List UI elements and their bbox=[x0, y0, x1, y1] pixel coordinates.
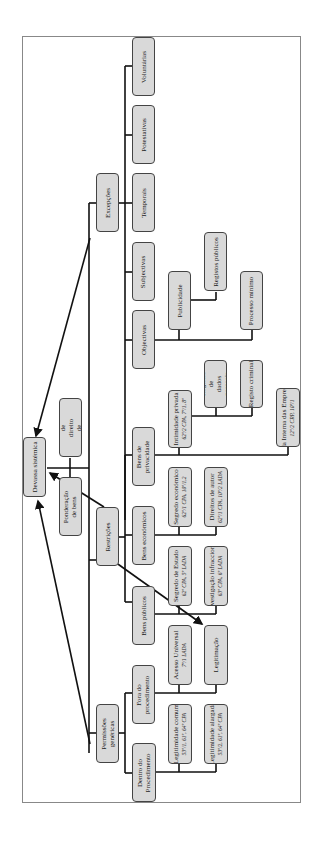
node-fora-procedimento: Fora do procedimento bbox=[132, 665, 155, 724]
connector-lines bbox=[0, 0, 320, 842]
node-label: Permissões genéricas bbox=[100, 718, 116, 750]
node-label: Objectivas bbox=[140, 325, 148, 355]
node-excepcoes: Excepções bbox=[96, 173, 119, 232]
node-ref: 7º/1 LADA bbox=[180, 630, 188, 679]
node-registos-publicos: Registos públicos bbox=[204, 232, 227, 291]
node-ref: 63º CPA, 6º LADA bbox=[216, 546, 224, 606]
node-ref: 12º/2 CRP, 10º/1 bbox=[288, 388, 296, 447]
node-investigacao-infraccional: Investigação infraccional63º CPA, 6º LAD… bbox=[204, 546, 228, 606]
node-label: Excepções bbox=[104, 188, 112, 218]
node-label: Bens económicos bbox=[140, 511, 148, 560]
node-bens-privacidade: Bens de privacidade bbox=[132, 427, 155, 486]
node-label: Vida Interna das Empresas bbox=[280, 388, 288, 447]
node-label: Segredo de Estado bbox=[172, 550, 180, 602]
node-temporais: Temporais bbox=[132, 173, 155, 232]
node-intimidade-privada: Intimidade privada62º/2 CPA, 7º/1, 8º bbox=[168, 390, 192, 448]
node-label: Ponderação de bens bbox=[63, 490, 79, 523]
node-ref: 62º CPA, 5º LADA bbox=[180, 550, 188, 602]
node-label: Publicidade bbox=[176, 284, 184, 317]
node-label: Dentro do Procedimento bbox=[136, 753, 152, 792]
node-label: Registos de dados pessoais bbox=[204, 372, 227, 396]
node-registos-dados-pessoais: Registos de dados pessoais bbox=[204, 360, 227, 408]
node-legitimidade-alargada: Legitimidade alargada53º/2, 61º, 64º CPA bbox=[204, 704, 228, 764]
node-label: Registos públicos bbox=[212, 237, 220, 287]
node-label: Devassa sistémica bbox=[31, 441, 39, 492]
node-registo-criminal: Registo criminal bbox=[240, 360, 263, 408]
node-ref: 62º/2 CPA, 7º/1, 8º bbox=[180, 392, 188, 445]
node-permissoes-genericas: Permissões genéricas bbox=[96, 704, 119, 763]
node-segredo-estado: Segredo de Estado62º CPA, 5º LADA bbox=[168, 546, 192, 606]
node-label: Direitos de autor bbox=[208, 473, 216, 520]
node-label: Investigação infraccional bbox=[208, 546, 216, 606]
node-label: Temporais bbox=[140, 188, 148, 217]
node-label: Subjectivas bbox=[140, 255, 148, 287]
node-label: Fora do procedimento bbox=[136, 675, 152, 713]
node-objectivas: Objectivas bbox=[132, 310, 155, 369]
node-devassa-sistemica: Devassa sistémica bbox=[23, 437, 46, 497]
node-vida-interna-empresas: Vida Interna das Empresas12º/2 CRP, 10º/… bbox=[276, 388, 300, 447]
node-label: Bens públicos bbox=[140, 596, 148, 635]
node-label: Voluntárias bbox=[140, 51, 148, 83]
node-bens-economicos: Bens económicos bbox=[132, 506, 155, 565]
node-label: Registo criminal bbox=[248, 361, 256, 407]
node-label: Processo mínimo bbox=[248, 276, 256, 324]
node-label: Potestativas bbox=[140, 118, 148, 151]
node-dentro-procedimento: Dentro do Procedimento bbox=[132, 743, 156, 802]
node-abuso-direito-acesso: Abuso de direito de acesso bbox=[59, 398, 82, 457]
node-restricoes: Restrições bbox=[96, 507, 119, 566]
node-ref: 62º/1 CPA, 10º/1,2 bbox=[180, 469, 188, 524]
node-voluntarias: Voluntárias bbox=[132, 37, 155, 96]
node-label: Abuso de direito de acesso bbox=[59, 417, 82, 438]
node-processo-minimo: Processo mínimo bbox=[240, 271, 263, 330]
node-legitimidade-comum: Legitimidade comum53º/1, 61º, 64º CPA bbox=[168, 704, 192, 764]
node-ref: 53º/2, 61º, 64º CPA bbox=[216, 704, 224, 764]
node-legitimacao: Legitimação bbox=[204, 625, 228, 685]
node-publicidade: Publicidade bbox=[168, 271, 191, 330]
node-label: Legitimidade alargada bbox=[208, 704, 216, 764]
node-ponderacao-bens: Ponderação de bens bbox=[59, 477, 82, 536]
node-potestativas: Potestativas bbox=[132, 105, 155, 164]
node-label: Legitimação bbox=[212, 638, 220, 673]
node-segredo-economico: Segredo económico62º/1 CPA, 10º/1,2 bbox=[168, 467, 192, 527]
node-bens-publicos: Bens públicos bbox=[132, 586, 155, 645]
node-label: Restrições bbox=[104, 522, 112, 551]
node-direitos-autor: Direitos de autor62º/1 CPA, 10º/2 LADA bbox=[204, 467, 228, 527]
node-ref: 53º/1, 61º, 64º CPA bbox=[180, 704, 188, 764]
node-ref: 62º/1 CPA, 10º/2 LADA bbox=[216, 471, 224, 523]
node-acesso-universal: Acesso Universal7º/1 LADA bbox=[168, 625, 192, 685]
node-label: Bens de privacidade bbox=[136, 440, 152, 473]
node-label: Legitimidade comum bbox=[172, 704, 180, 764]
node-subjectivas: Subjectivas bbox=[132, 242, 155, 301]
